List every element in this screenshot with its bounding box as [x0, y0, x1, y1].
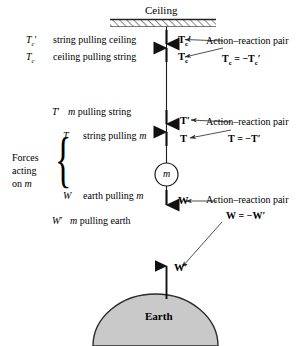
ceiling-hatch-group: [110, 20, 216, 27]
brace-caption-line2: acting: [12, 166, 36, 177]
brace-caption-line3-text: on: [12, 178, 25, 189]
vector-label-T-prime: T′: [180, 115, 190, 126]
annotation-caption-pair-ceiling: Action–reaction pair: [206, 36, 288, 47]
left-desc-1: string pulling ceiling: [53, 35, 136, 46]
vector-label-T-c-prime: Tc′: [178, 34, 191, 49]
left-desc-5: earth pulling m: [83, 191, 144, 202]
annotation-equation-pair-weight: W = −W′: [226, 211, 265, 222]
left-label-row-2: Tc: [26, 52, 35, 64]
leader-T: [190, 130, 231, 138]
vector-label-T: T: [180, 133, 187, 144]
annotation-caption-pair-tension: Action–reaction pair: [206, 117, 288, 128]
left-symbol-prime-1: ′: [35, 34, 37, 45]
left-desc-3: m pulling string: [68, 107, 131, 118]
forces-brace: {: [55, 124, 71, 195]
left-desc-6: m pulling earth: [70, 216, 131, 227]
free-body-diagram-figure: Ceiling Earth m Tc′ string pulling ceili…: [0, 0, 302, 346]
left-label-row-3: T′: [52, 107, 60, 118]
leader-T-c: [185, 48, 223, 57]
brace-caption-line3: on m: [12, 179, 32, 190]
left-symbol-sub-2: c: [32, 57, 35, 64]
left-desc-2: ceiling pulling string: [53, 52, 136, 63]
vector-label-W: W: [178, 195, 189, 206]
vector-label-W-prime: W′: [174, 262, 187, 273]
left-desc-4: string pulling m: [83, 131, 146, 142]
mass-label: m: [163, 169, 170, 180]
left-symbol-prime-3: ′: [58, 106, 60, 117]
annotation-equation-pair-ceiling: Tc = −Tc′: [222, 54, 261, 66]
leader-W-prime: [182, 222, 222, 267]
diagram-canvas: [0, 0, 302, 346]
left-desc-5-text: earth pulling: [83, 190, 136, 201]
earth-label: Earth: [145, 311, 173, 323]
left-label-row-1: Tc′: [26, 35, 37, 47]
left-label-row-6: W′: [52, 216, 63, 227]
left-desc-6-text: pulling earth: [77, 215, 130, 226]
vector-label-T-c: Tc: [178, 51, 188, 66]
annotation-caption-pair-weight: Action–reaction pair: [206, 195, 288, 206]
brace-caption-line1: Forces: [12, 153, 39, 164]
left-symbol-prime-6: ′: [60, 215, 62, 226]
left-desc-3-text: pulling string: [75, 106, 131, 117]
annotation-equation-pair-tension: T = −T′: [228, 134, 261, 145]
ceiling-label: Ceiling: [145, 5, 177, 17]
left-desc-4-text: string pulling: [83, 130, 139, 141]
